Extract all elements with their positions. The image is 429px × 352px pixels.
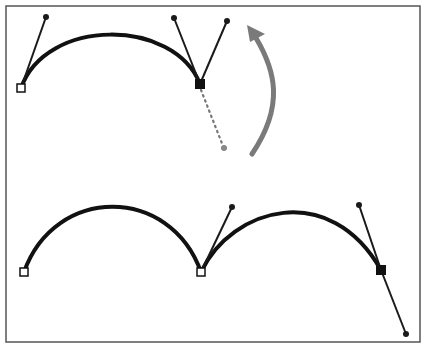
bottom-right-in-handle-point	[356, 202, 362, 208]
top-anchor-selected	[195, 79, 205, 89]
bezier-diagram	[0, 0, 429, 352]
bottom-curve-1	[24, 207, 201, 272]
top-anchor-open	[17, 84, 25, 92]
top-left-handle-point	[43, 14, 49, 20]
bottom-anchor-selected	[376, 265, 386, 275]
bottom-path	[20, 202, 409, 337]
top-left-handle	[21, 17, 46, 88]
original-dotted-handle-point	[221, 145, 227, 151]
top-curve	[21, 35, 200, 88]
bottom-anchor-left	[20, 268, 28, 276]
top-right-out-handle-point	[224, 18, 230, 24]
bottom-curve-2	[201, 212, 381, 272]
rotation-arrow-shaft	[252, 38, 274, 154]
bottom-mid-handle-point	[229, 204, 235, 210]
original-dotted-handle	[201, 90, 223, 146]
top-right-out-handle	[200, 21, 227, 84]
bottom-anchor-mid	[197, 268, 205, 276]
bottom-right-out-handle	[381, 270, 406, 334]
bottom-right-in-handle	[359, 205, 381, 270]
diagram-frame	[6, 6, 420, 342]
top-path	[17, 14, 274, 154]
top-right-in-handle	[174, 18, 200, 84]
top-right-in-handle-point	[171, 15, 177, 21]
bottom-right-out-handle-point	[403, 331, 409, 337]
